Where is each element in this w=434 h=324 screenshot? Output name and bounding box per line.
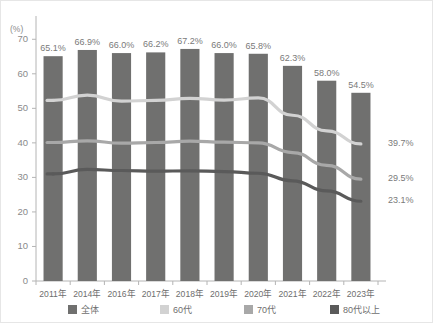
legend-swatch-icon — [160, 305, 169, 314]
bar-value-label: 62.3% — [270, 53, 316, 63]
y-tick-label: 20 — [6, 206, 28, 217]
bar — [146, 52, 165, 281]
bar — [215, 53, 234, 281]
y-tick-label: 40 — [6, 137, 28, 148]
legend-swatch-icon — [244, 305, 253, 314]
bar — [44, 56, 63, 281]
line-end-label: 29.5% — [388, 173, 414, 183]
bar-value-label: 58.0% — [304, 68, 350, 78]
y-tick-label: 60 — [6, 68, 28, 79]
line-series — [53, 169, 361, 201]
bar-value-label: 54.5% — [338, 80, 384, 90]
y-tick-label: 10 — [6, 240, 28, 251]
x-tick-label: 2023年 — [341, 287, 381, 299]
legend-item[interactable]: 70代 — [244, 303, 276, 316]
legend-item[interactable]: 60代 — [160, 303, 192, 316]
bar — [351, 93, 370, 281]
bar — [78, 50, 97, 281]
legend-swatch-icon — [330, 305, 339, 314]
legend-label: 60代 — [173, 303, 192, 316]
y-tick-label: 0 — [6, 275, 28, 286]
y-tick-label: 30 — [6, 171, 28, 182]
chart-legend: 全体60代70代80代以上 — [0, 300, 434, 320]
legend-label: 80代以上 — [343, 303, 380, 316]
line-end-label: 39.7% — [388, 138, 414, 148]
bar-line-combo-chart: (%) 010203040506070 2011年2014年2016年2017年… — [0, 0, 434, 324]
line-end-label: 23.1% — [388, 195, 414, 205]
legend-item[interactable]: 全体 — [68, 303, 99, 316]
bar — [249, 54, 268, 281]
bar-value-label: 65.8% — [235, 41, 281, 51]
legend-item[interactable]: 80代以上 — [330, 303, 380, 316]
legend-label: 全体 — [81, 303, 99, 316]
line-series — [53, 95, 361, 144]
y-tick-label: 70 — [6, 33, 28, 44]
legend-swatch-icon — [68, 305, 77, 314]
legend-label: 70代 — [257, 303, 276, 316]
bar — [283, 66, 302, 281]
bar — [180, 49, 199, 281]
y-tick-label: 50 — [6, 102, 28, 113]
bar — [112, 53, 131, 281]
bar — [317, 81, 336, 281]
line-series — [53, 141, 361, 179]
